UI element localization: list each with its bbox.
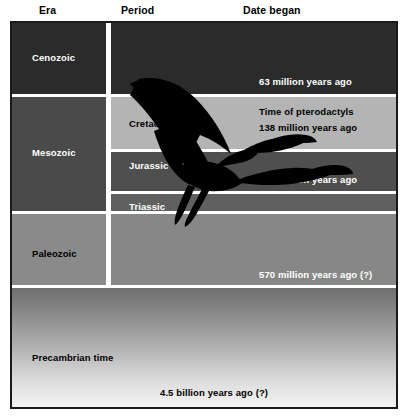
rule-mesozoic-paleozoic [12,211,396,214]
era-block-cenozoic: Cenozoic [12,23,106,94]
row-cretaceous: Cretaceous Time of pterodactyls 138 mill… [111,97,396,149]
rule-cretaceous-jurassic [111,149,396,152]
row-paleozoic: 570 million years ago (?) [111,214,396,288]
geologic-time-scale-figure: Era Period Date began Precambrian time 4… [0,0,409,420]
rule-jurassic-triassic [111,191,396,194]
date-label-cretaceous: 138 million years ago [259,122,357,133]
column-divider [106,23,111,288]
column-headers: Era Period Date began [0,0,409,22]
time-scale-chart: Precambrian time 4.5 billion years ago (… [10,21,398,409]
period-label-cretaceous: Cretaceous [129,118,182,129]
date-label-cenozoic: 63 million years ago [259,76,352,87]
chart-bands: Precambrian time 4.5 billion years ago (… [12,23,396,407]
era-block-paleozoic: Paleozoic [12,214,106,288]
column-header-period: Period [121,4,154,16]
era-label-precambrian: Precambrian time [32,352,113,363]
date-label-precambrian: 4.5 billion years ago (?) [160,387,268,398]
era-label-paleozoic: Paleozoic [32,248,77,259]
rule-cenozoic-mesozoic [12,94,396,97]
row-jurassic: Jurassic 205 million years ago [111,152,396,191]
column-header-era: Era [39,4,56,16]
era-label-mesozoic: Mesozoic [32,147,76,158]
annotation-pterodactyl-time: Time of pterodactyls [259,106,354,117]
period-label-jurassic: Jurassic [129,160,168,171]
row-cenozoic: 63 million years ago [111,23,396,94]
column-header-date: Date began [243,4,301,16]
rule-paleozoic-precambrian [12,285,396,288]
date-label-jurassic: 205 million years ago [259,174,357,185]
band-precambrian: Precambrian time 4.5 billion years ago (… [12,288,396,407]
era-label-cenozoic: Cenozoic [32,52,75,63]
date-label-paleozoic: 570 million years ago (?) [259,269,372,280]
era-block-mesozoic: Mesozoic [12,97,106,211]
